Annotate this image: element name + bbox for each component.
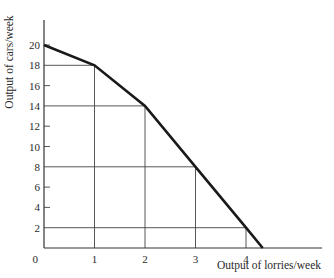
x-axis-label: Output of lorries/week <box>217 259 321 272</box>
x-tick-label: 2 <box>142 253 148 265</box>
y-tick-label: 12 <box>29 120 40 132</box>
y-tick-label: 8 <box>35 161 41 173</box>
y-tick-label: 14 <box>29 100 41 112</box>
ppf-curve <box>44 45 263 248</box>
origin-label: 0 <box>33 253 39 265</box>
production-possibility-chart: 246810121416182012340 Output of lorries/… <box>0 0 334 278</box>
y-tick-label: 2 <box>35 222 41 234</box>
axis-ticks <box>44 45 50 207</box>
y-tick-label: 6 <box>35 181 41 193</box>
y-tick-label: 20 <box>29 39 41 51</box>
guide-lines <box>44 65 246 248</box>
y-tick-label: 4 <box>35 201 41 213</box>
x-tick-label: 1 <box>92 253 98 265</box>
y-axis-label: Output of cars/week <box>3 15 16 108</box>
tick-labels: 246810121416182012340 <box>29 39 249 265</box>
y-tick-label: 10 <box>29 141 41 153</box>
x-tick-label: 3 <box>193 253 199 265</box>
y-tick-label: 16 <box>29 80 41 92</box>
y-tick-label: 18 <box>29 59 41 71</box>
